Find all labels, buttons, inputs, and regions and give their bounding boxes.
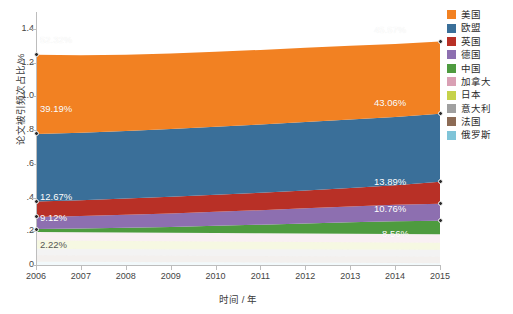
x-tick-mark [126, 266, 127, 270]
y-tick-label: 1.0 [0, 90, 34, 100]
legend-label: 美国 [461, 10, 481, 20]
legend-item-德国[interactable]: 德国 [447, 48, 509, 61]
legend-item-欧盟[interactable]: 欧盟 [447, 21, 509, 34]
data-point-marker [34, 227, 39, 232]
legend-label: 加拿大 [461, 77, 491, 87]
y-tick-label: .6 [0, 158, 34, 168]
y-tick-label: .8 [0, 124, 34, 134]
x-tick-label: 2013 [330, 271, 370, 281]
x-tick-mark [305, 266, 306, 270]
x-axis-title: 时间 / 年 [36, 292, 440, 306]
legend-label: 俄罗斯 [461, 130, 491, 140]
legend-item-美国[interactable]: 美国 [447, 8, 509, 21]
legend-swatch-icon [447, 117, 456, 126]
x-tick-label: 2009 [151, 271, 191, 281]
x-tick-mark [395, 266, 396, 270]
x-tick-label: 2015 [420, 271, 460, 281]
legend-swatch-icon [447, 77, 456, 86]
data-point-marker [438, 201, 443, 206]
data-point-marker [438, 179, 443, 184]
data-label-left: 52.32% [40, 34, 72, 45]
legend-swatch-icon [447, 10, 456, 19]
data-label-right: 13.89% [374, 176, 406, 187]
x-tick-mark [350, 266, 351, 270]
chart-legend: 美国欧盟英国德国中国加拿大日本意大利法国俄罗斯 [447, 8, 509, 142]
legend-label: 中国 [461, 64, 481, 74]
y-tick-mark [32, 96, 36, 97]
x-tick-label: 2007 [61, 271, 101, 281]
legend-item-意大利[interactable]: 意大利 [447, 102, 509, 115]
legend-swatch-icon [447, 64, 456, 73]
y-tick-label: 0 [0, 259, 34, 269]
data-label-right: 8.56% [382, 228, 409, 239]
legend-label: 欧盟 [461, 23, 481, 33]
data-label-left: 9.12% [40, 212, 67, 223]
data-label-right: 43.06% [374, 97, 406, 108]
legend-label: 德国 [461, 50, 481, 60]
legend-swatch-icon [447, 24, 456, 33]
y-tick-label: 1.2 [0, 57, 34, 67]
legend-swatch-icon [447, 104, 456, 113]
legend-item-俄罗斯[interactable]: 俄罗斯 [447, 129, 509, 142]
data-point-marker [34, 199, 39, 204]
data-point-marker [438, 39, 443, 44]
y-tick-mark [32, 63, 36, 64]
data-point-marker [438, 218, 443, 223]
legend-label: 法国 [461, 117, 481, 127]
legend-swatch-icon [447, 131, 456, 140]
x-axis-line [36, 265, 441, 266]
legend-label: 意大利 [461, 104, 491, 114]
x-tick-label: 2011 [240, 271, 280, 281]
legend-item-加拿大[interactable]: 加拿大 [447, 75, 509, 88]
x-tick-label: 2008 [106, 271, 146, 281]
x-tick-label: 2014 [375, 271, 415, 281]
legend-item-英国[interactable]: 英国 [447, 35, 509, 48]
x-tick-mark [81, 266, 82, 270]
y-tick-mark [32, 164, 36, 165]
legend-item-法国[interactable]: 法国 [447, 115, 509, 128]
x-tick-mark [216, 266, 217, 270]
data-label-right: 45.57% [374, 24, 406, 35]
legend-swatch-icon [447, 50, 456, 59]
y-tick-mark [32, 29, 36, 30]
y-tick-label: .4 [0, 192, 34, 202]
data-point-marker [438, 111, 443, 116]
x-tick-mark [171, 266, 172, 270]
legend-label: 英国 [461, 37, 481, 47]
x-tick-label: 2006 [16, 271, 56, 281]
data-label-left: 2.22% [40, 239, 67, 250]
legend-item-中国[interactable]: 中国 [447, 62, 509, 75]
plot-clip [36, 12, 440, 265]
data-label-right: 10.76% [374, 203, 406, 214]
plot-area [36, 12, 440, 265]
data-point-marker [34, 52, 39, 57]
x-tick-mark [260, 266, 261, 270]
x-tick-mark [36, 266, 37, 270]
data-label-left: 12.67% [40, 191, 72, 202]
stacked-area-svg [36, 12, 440, 265]
legend-item-日本[interactable]: 日本 [447, 88, 509, 101]
legend-swatch-icon [447, 37, 456, 46]
legend-label: 日本 [461, 90, 481, 100]
chart-figure: 论文被引频次占比/% 0.2.4.6.81.01.21.4 2006200720… [0, 0, 513, 314]
x-tick-mark [440, 266, 441, 270]
y-tick-label: .2 [0, 225, 34, 235]
y-tick-label: 1.4 [0, 23, 34, 33]
x-tick-label: 2012 [285, 271, 325, 281]
x-tick-label: 2010 [196, 271, 236, 281]
data-label-left: 39.19% [40, 103, 72, 114]
legend-swatch-icon [447, 91, 456, 100]
